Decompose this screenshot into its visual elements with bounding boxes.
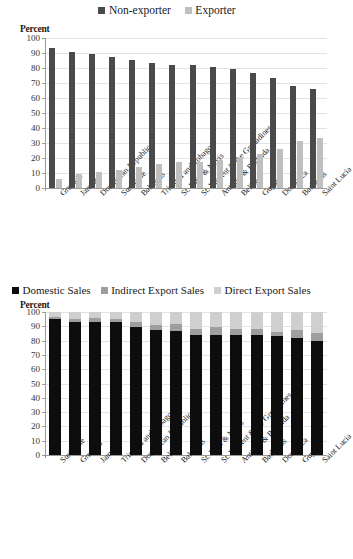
bar-segment <box>291 312 303 330</box>
bar <box>270 78 276 188</box>
y-axis-tick-label: 10 <box>18 436 40 445</box>
gridline <box>45 341 327 342</box>
bar <box>129 60 135 188</box>
gridline <box>45 312 327 313</box>
x-tick-mark <box>267 188 268 191</box>
bar <box>297 141 303 188</box>
y-axis-tick-label: 90 <box>18 322 40 331</box>
bar-segment <box>210 335 222 455</box>
y-axis-tick-label: 100 <box>18 34 40 43</box>
bar <box>310 89 316 188</box>
x-tick-mark <box>166 455 167 458</box>
bar <box>56 179 62 188</box>
y-axis-tick-label: 40 <box>18 124 40 133</box>
x-tick-mark <box>246 188 247 191</box>
stacked-bar <box>130 312 142 455</box>
stacked-bar <box>170 312 182 455</box>
bar-segment <box>130 327 142 455</box>
bar <box>109 57 115 188</box>
gridline <box>45 369 327 370</box>
y-axis-tick-label: 40 <box>18 393 40 402</box>
y-axis-tick-label: 50 <box>18 109 40 118</box>
stacked-bar <box>210 312 222 455</box>
bar <box>210 67 216 188</box>
x-axis-tick-label: Saint Lucia <box>321 165 353 198</box>
bar <box>277 149 283 188</box>
bar <box>190 65 196 188</box>
gridline <box>45 68 327 69</box>
x-tick-mark <box>85 188 86 191</box>
y-axis-tick-label: 70 <box>18 350 40 359</box>
bar-segment <box>271 312 283 332</box>
gridline <box>45 384 327 385</box>
bar <box>96 172 102 188</box>
bar-segment <box>311 333 323 341</box>
x-axis-tick-label: Saint Lucia <box>321 432 353 465</box>
bar <box>49 48 55 188</box>
y-axis-tick-label: 20 <box>18 422 40 431</box>
x-tick-mark <box>105 188 106 191</box>
bar-segment <box>150 330 162 455</box>
stacked-bar <box>251 312 263 455</box>
y-axis-tick-label: 70 <box>18 79 40 88</box>
bar-segment <box>150 312 162 325</box>
bar <box>250 73 256 188</box>
bar <box>257 154 263 188</box>
y-axis-tick-label: 90 <box>18 49 40 58</box>
bar <box>116 170 122 188</box>
bar <box>156 164 162 188</box>
bar-segment <box>190 312 202 329</box>
stacked-bar <box>49 312 61 455</box>
bar <box>317 138 323 188</box>
y-axis-tick-label: 0 <box>18 451 40 460</box>
x-tick-mark <box>307 188 308 191</box>
y-axis-tick-label: 80 <box>18 64 40 73</box>
gridline <box>45 113 327 114</box>
bar <box>197 162 203 188</box>
x-tick-mark <box>126 455 127 458</box>
x-tick-mark <box>186 455 187 458</box>
x-tick-mark <box>146 455 147 458</box>
gridline <box>45 38 327 39</box>
stacked-bar <box>311 312 323 455</box>
bar <box>230 69 236 188</box>
x-tick-mark <box>65 455 66 458</box>
gridline <box>45 53 327 54</box>
x-tick-mark <box>126 188 127 191</box>
x-tick-mark <box>287 188 288 191</box>
y-axis-tick-label: 30 <box>18 408 40 417</box>
bar-segment <box>130 312 142 322</box>
stacked-bar <box>190 312 202 455</box>
bar-segment <box>69 312 81 319</box>
bar <box>237 157 243 188</box>
bar <box>176 162 182 188</box>
bar-segment <box>230 312 242 329</box>
y-axis-tick-label: 30 <box>18 139 40 148</box>
x-tick-mark <box>246 455 247 458</box>
x-tick-mark <box>105 455 106 458</box>
y-axis-tick-label: 10 <box>18 169 40 178</box>
bar-segment <box>89 322 101 455</box>
x-tick-mark <box>287 455 288 458</box>
stacked-bar <box>150 312 162 455</box>
bar-segment <box>69 322 81 455</box>
plot-area-bottom: 0102030405060708090100SurinameGrenadaJam… <box>0 280 334 559</box>
gridline <box>45 355 327 356</box>
y-axis-tick-label: 60 <box>18 365 40 374</box>
gridline <box>45 426 327 427</box>
bar-segment <box>230 335 242 455</box>
bar-segment <box>110 312 122 319</box>
bar-segment <box>251 312 263 329</box>
y-axis-tick-label: 20 <box>18 154 40 163</box>
gridline <box>45 326 327 327</box>
gridline <box>45 83 327 84</box>
bar <box>69 52 75 188</box>
x-tick-mark <box>206 455 207 458</box>
x-tick-mark <box>85 455 86 458</box>
exporter-status-chart: Non-exporter Exporter Percent 0102030405… <box>0 0 334 280</box>
stacked-bar <box>110 312 122 455</box>
x-tick-mark <box>226 188 227 191</box>
gridline <box>45 143 327 144</box>
y-axis-tick-label: 50 <box>18 379 40 388</box>
x-tick-mark <box>45 188 46 191</box>
